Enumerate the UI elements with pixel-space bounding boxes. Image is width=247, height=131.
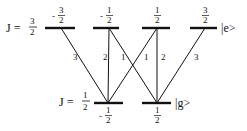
upper-m-sign: - xyxy=(100,11,103,21)
upper-m-numerator: 3 xyxy=(203,5,208,15)
upper-m-numerator: 1 xyxy=(155,5,160,15)
transition-strength-label: 1 xyxy=(144,52,149,62)
upper-m-numerator: 3 xyxy=(59,5,64,15)
transition-strength-label: 1 xyxy=(121,52,126,62)
transition-line xyxy=(108,28,109,103)
lower-m-sign: - xyxy=(99,111,102,121)
upper-j-label: J = 3 2 xyxy=(6,16,37,37)
lower-j-denominator: 2 xyxy=(83,102,88,112)
upper-m-denominator: 2 xyxy=(155,15,160,25)
transition-5: 3 xyxy=(157,28,205,103)
ground-state-label: |g> xyxy=(175,96,190,110)
lower-level-0: -12 xyxy=(94,103,123,125)
transition-strength-label: 3 xyxy=(194,52,199,62)
upper-level-0: -32 xyxy=(45,5,75,28)
transition-strength-label: 2 xyxy=(103,52,108,62)
lower-m-numerator: 1 xyxy=(155,105,160,115)
lower-j-numerator: 1 xyxy=(83,90,88,100)
upper-j-prefix: J = xyxy=(6,21,21,35)
lower-m-denominator: 2 xyxy=(106,115,111,125)
transition-strength-label: 2 xyxy=(161,52,166,62)
upper-level-2: 12 xyxy=(142,5,170,28)
transition-strength-label: 3 xyxy=(73,52,78,62)
lower-m-denominator: 2 xyxy=(155,115,160,125)
upper-m-denominator: 2 xyxy=(203,15,208,25)
upper-m-sign: - xyxy=(52,11,55,21)
energy-level-diagram: 321123 -32-121232-1212 J = 3 2 J = 1 2 |… xyxy=(0,0,247,131)
upper-j-denominator: 2 xyxy=(30,27,35,37)
transition-1: 2 xyxy=(103,28,109,103)
transition-line xyxy=(157,28,205,103)
upper-level-3: 32 xyxy=(190,5,217,28)
lower-level-1: 12 xyxy=(142,103,171,125)
upper-m-numerator: 1 xyxy=(107,5,112,15)
lower-j-prefix: J = xyxy=(59,95,74,109)
level-labels: J = 3 2 J = 1 2 |e> |g> xyxy=(6,16,236,112)
upper-m-denominator: 2 xyxy=(107,15,112,25)
lower-j-label: J = 1 2 xyxy=(59,90,90,112)
upper-m-denominator: 2 xyxy=(59,15,64,25)
upper-j-numerator: 3 xyxy=(30,16,35,26)
excited-state-label: |e> xyxy=(221,21,236,35)
lower-m-numerator: 1 xyxy=(106,105,111,115)
upper-level-1: -12 xyxy=(93,5,119,28)
